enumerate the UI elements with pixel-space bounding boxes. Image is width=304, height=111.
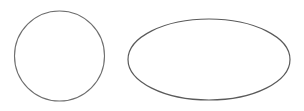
diagram-canvas (0, 0, 304, 111)
ellipse-shape (128, 19, 290, 100)
circle-shape (15, 11, 105, 101)
shapes-svg (0, 0, 304, 111)
